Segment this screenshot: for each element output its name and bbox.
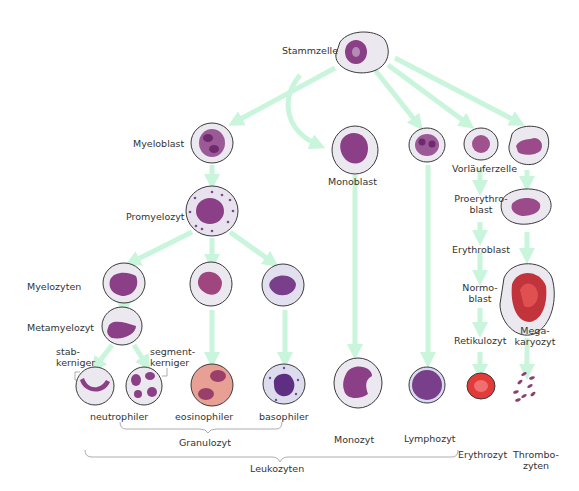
label-monozyt: Monozyt (334, 434, 374, 445)
label-monoblast: Monoblast (328, 176, 377, 187)
label-eosinophiler: eosinophiler (175, 411, 233, 422)
bracket-segmentkerniger (162, 368, 167, 376)
label-normoblast: Normo- blast (455, 282, 505, 304)
label-myeloblast: Myeloblast (133, 138, 184, 149)
cell-monoblast (332, 126, 378, 174)
cell-lymphoblast (409, 128, 445, 162)
label-neutrophiler: neutrophiler (90, 411, 148, 422)
cell-myelozyt-neutro (103, 263, 145, 303)
label-retikulozyt: Retikulozyt (454, 335, 506, 346)
cell-stabkerniger (76, 367, 114, 405)
label-stabkerniger: stab- kerniger (56, 346, 95, 368)
cell-erythrozyt (467, 373, 495, 399)
label-proerythroblast: Proerythro- blast (452, 193, 510, 215)
label-vorlaeuferzelle: Vorläuferzelle (452, 163, 517, 174)
label-promyelozyt: Promyelozyt (126, 211, 185, 222)
cell-segmentkerniger (126, 367, 162, 405)
label-megakaryozyt: Mega- karyozyt (510, 325, 560, 347)
bracket-granulozyt (120, 422, 282, 433)
cell-myelozyt-baso (262, 264, 304, 306)
label-granulozyt: Granulozyt (179, 437, 231, 448)
label-metamyelozyt: Metamyelozyt (27, 322, 94, 333)
cell-basophiler (263, 364, 305, 404)
cell-monozyt (334, 358, 382, 408)
label-erythrozyt: Erythrozyt (458, 449, 507, 460)
cell-lymphozyt (409, 367, 445, 403)
cell-vorlaeuferzelle-erythro (464, 128, 498, 160)
label-basophiler: basophiler (259, 411, 309, 422)
cell-thrombozyten (513, 371, 537, 402)
cell-vorlaeuferzelle-mega (509, 126, 549, 164)
bracket-leukozyten (85, 450, 458, 462)
label-thrombozyten: Thrombo- zyten (508, 449, 564, 471)
cell-eosinophiler (191, 364, 233, 406)
label-erythroblast: Erythroblast (452, 244, 510, 255)
label-segmentkerniger: segment- kerniger (150, 346, 195, 368)
label-lymphozyt: Lymphozyt (404, 433, 456, 444)
label-myelozyten: Myelozyten (27, 281, 81, 292)
cell-myelozyt-eosino (190, 262, 232, 306)
cell-stammzelle (336, 32, 388, 73)
label-stammzelle: Stammzelle (282, 45, 338, 56)
cell-metamyelozyt (102, 307, 142, 345)
cell-myeloblast (191, 123, 233, 163)
label-leukozyten: Leukozyten (250, 463, 304, 474)
cell-promyelozyt (186, 186, 238, 236)
